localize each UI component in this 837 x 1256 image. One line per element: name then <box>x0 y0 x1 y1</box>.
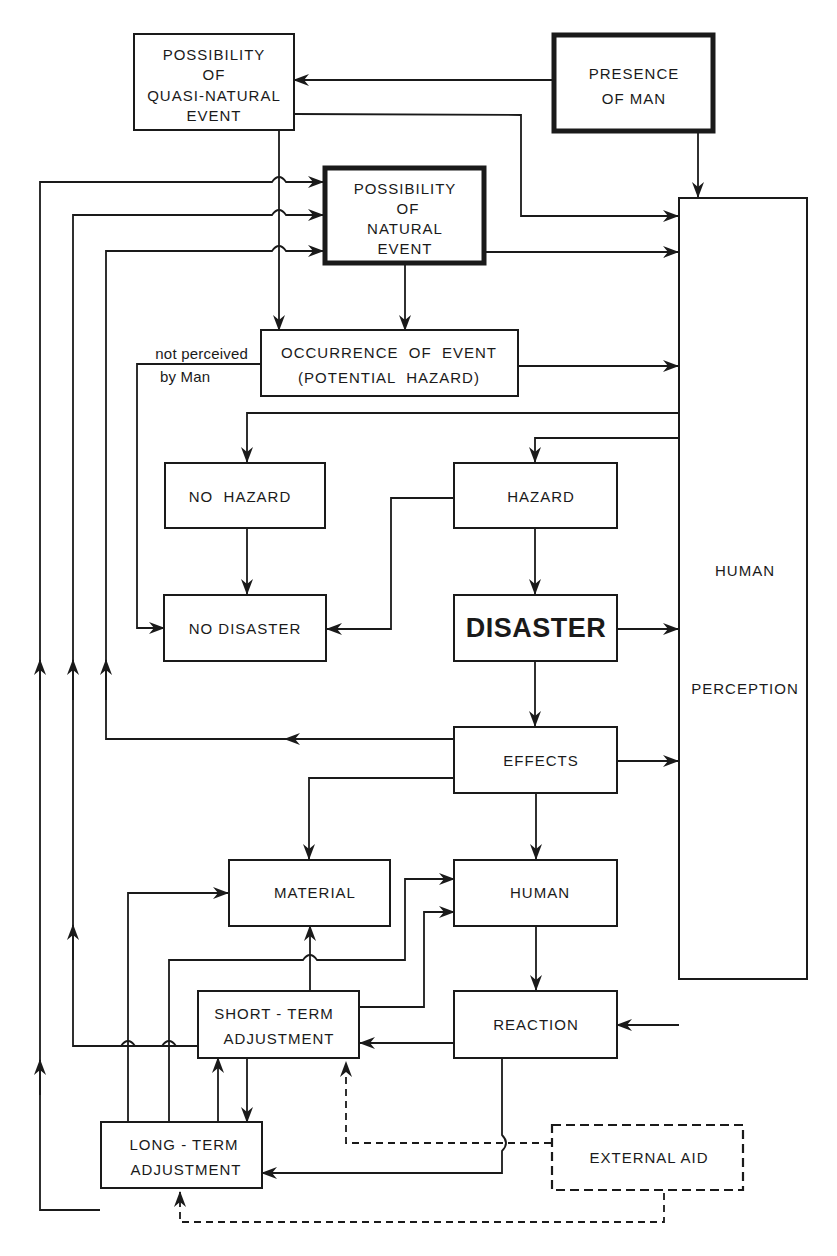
arrow-hazard-to-no-disaster <box>327 498 454 629</box>
node-presence-of-man: PRESENCE OF MAN <box>554 35 713 131</box>
node-label: MATERIAL <box>274 884 356 901</box>
node-quasi-natural-event: POSSIBILITY OF QUASI-NATURAL EVENT <box>134 34 294 130</box>
node-label: OF <box>203 66 226 83</box>
node-label: HUMAN <box>715 562 775 579</box>
node-label: OF <box>397 200 420 217</box>
node-disaster: DISASTER <box>454 595 617 661</box>
node-label: OCCURRENCE OF EVENT <box>281 344 497 361</box>
node-material: MATERIAL <box>229 860 390 926</box>
annotation-text: by Man <box>160 368 210 385</box>
node-label: EVENT <box>377 240 432 257</box>
node-label: ADJUSTMENT <box>131 1161 242 1178</box>
arrow-external-aid-to-long-term <box>180 1192 664 1222</box>
node-human-perception: HUMAN PERCEPTION <box>679 198 807 979</box>
node-natural-event: POSSIBILITY OF NATURAL EVENT <box>325 168 484 263</box>
node-label: POSSIBILITY <box>354 180 457 197</box>
node-label: DISASTER <box>466 613 607 643</box>
node-short-term-adjustment: SHORT - TERM ADJUSTMENT <box>198 991 359 1058</box>
node-label: PRESENCE <box>589 65 680 82</box>
arrow-external-aid-to-short-term <box>346 1062 551 1143</box>
node-label: EXTERNAL AID <box>590 1149 709 1166</box>
short-term-left-link <box>73 1041 198 1046</box>
hazard-flow-diagram: POSSIBILITY OF QUASI-NATURAL EVENT PRESE… <box>0 0 837 1256</box>
node-label: ADJUSTMENT <box>224 1030 335 1047</box>
node-label: NO DISASTER <box>189 620 302 637</box>
node-external-aid: EXTERNAL AID <box>552 1125 743 1190</box>
node-human: HUMAN <box>454 860 617 926</box>
annotation-text: not perceived <box>155 345 248 362</box>
node-long-term-adjustment: LONG - TERM ADJUSTMENT <box>101 1122 262 1188</box>
node-effects: EFFECTS <box>454 727 617 793</box>
node-label: (POTENTIAL HAZARD) <box>298 369 480 386</box>
arrow-effects-to-material <box>309 778 453 859</box>
annotation-not-perceived: not perceived by Man <box>155 345 248 385</box>
node-label: SHORT - TERM <box>214 1005 334 1022</box>
node-hazard: HAZARD <box>454 463 617 528</box>
node-occurrence-of-event: OCCURRENCE OF EVENT (POTENTIAL HAZARD) <box>261 330 518 396</box>
node-label: REACTION <box>493 1016 579 1033</box>
node-label: OF MAN <box>602 90 666 107</box>
node-no-hazard: NO HAZARD <box>165 463 325 528</box>
node-no-disaster: NO DISASTER <box>164 595 326 661</box>
node-reaction: REACTION <box>454 991 617 1058</box>
node-label: PERCEPTION <box>691 680 799 697</box>
arrow-reaction-to-long-term <box>262 1058 506 1173</box>
node-label: HUMAN <box>510 884 570 901</box>
node-label: EVENT <box>186 107 241 124</box>
node-label: QUASI-NATURAL <box>147 87 281 104</box>
node-label: LONG - TERM <box>129 1136 238 1153</box>
node-label: EFFECTS <box>503 752 578 769</box>
node-label: NATURAL <box>367 220 443 237</box>
node-label: NO HAZARD <box>189 488 292 505</box>
node-label: HAZARD <box>507 488 575 505</box>
node-label: POSSIBILITY <box>163 46 266 63</box>
arrow-perception-to-hazard <box>535 438 679 462</box>
